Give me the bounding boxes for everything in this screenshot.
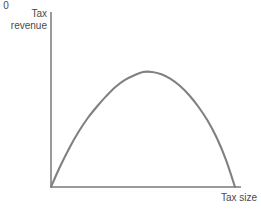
y-axis-label-line-1: Tax [31,8,47,19]
laffer-curve-figure: Taxrevenue Tax size 0 [0,0,261,218]
x-axis-label: Tax size [200,192,257,204]
chart-plot-area [0,0,261,218]
y-axis-label-line-2: revenue [11,20,47,31]
y-axis-label: Taxrevenue [0,8,47,32]
laffer-curve-path [51,72,235,187]
